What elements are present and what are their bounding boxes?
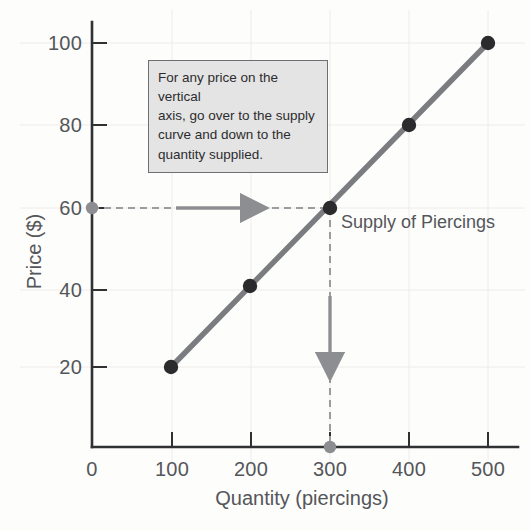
supply-curve-label: Supply of Piercings — [341, 212, 495, 233]
y-tick-label-100: 100 — [24, 32, 82, 55]
x-tick-label-200: 200 — [234, 458, 268, 481]
data-point — [323, 201, 337, 215]
annotation-line: quantity supplied. — [158, 145, 318, 164]
y-tick-label-20: 20 — [24, 356, 82, 379]
x-tick-label-400: 400 — [392, 458, 426, 481]
data-point — [402, 118, 416, 132]
instruction-annotation-box: For any price on the vertical axis, go o… — [148, 60, 328, 173]
data-point — [243, 279, 257, 293]
annotation-line: curve and down to the — [158, 125, 318, 144]
price-axis-marker — [86, 202, 98, 214]
quantity-axis-marker — [324, 441, 336, 453]
y-tick-label-80: 80 — [24, 114, 82, 137]
annotation-line: For any price on the vertical — [158, 68, 318, 106]
data-point — [481, 36, 495, 50]
annotation-line: axis, go over to the supply — [158, 106, 318, 125]
data-point — [164, 360, 178, 374]
supply-curve-figure: 100 80 60 40 20 0 100 200 300 400 500 Pr… — [0, 0, 530, 531]
x-tick-label-300: 300 — [313, 458, 347, 481]
x-tick-label-500: 500 — [471, 458, 505, 481]
x-tick-label-0: 0 — [86, 458, 97, 481]
x-tick-label-100: 100 — [155, 458, 189, 481]
y-axis-title: Price ($) — [23, 182, 46, 322]
x-axis-title: Quantity (piercings) — [92, 487, 512, 510]
